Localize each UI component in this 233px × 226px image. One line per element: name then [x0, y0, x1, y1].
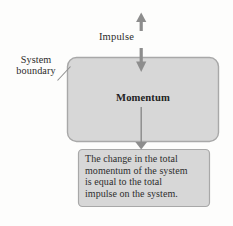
impulse-momentum-diagram: Impulse System boundary Momentum The cha… — [0, 0, 233, 226]
impulse-arrow-up-icon — [136, 13, 146, 32]
statement-line-2: momentum of the system — [85, 165, 210, 177]
statement-line-3: is equal to the total — [85, 176, 210, 188]
statement-line-1: The change in the total — [85, 153, 210, 165]
system-boundary-label-line1: System — [21, 54, 52, 65]
impulse-label: Impulse — [0, 31, 233, 42]
statement-line-4: impulse on the system. — [85, 188, 210, 200]
system-boundary-label: System boundary — [2, 54, 70, 76]
system-boundary-label-line2: boundary — [2, 65, 70, 76]
statement-text: The change in the total momentum of the … — [85, 153, 210, 199]
momentum-label: Momentum — [67, 92, 219, 103]
